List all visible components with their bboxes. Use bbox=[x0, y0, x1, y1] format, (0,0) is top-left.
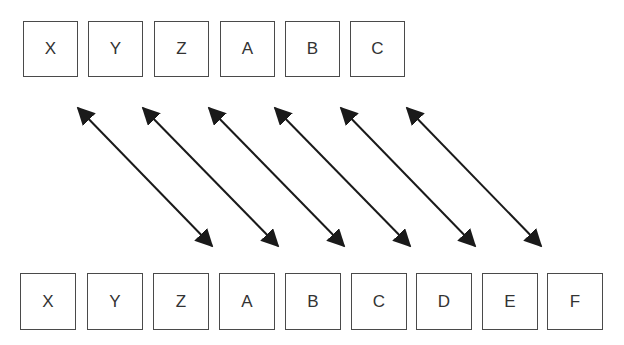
bottom-box-c: C bbox=[351, 273, 407, 330]
bottom-box-x: X bbox=[20, 273, 76, 330]
box-label: C bbox=[373, 292, 385, 312]
box-label: X bbox=[42, 292, 53, 312]
double-arrow-icon bbox=[78, 108, 212, 246]
bottom-box-b: B bbox=[285, 273, 341, 330]
bottom-box-d: D bbox=[416, 273, 472, 330]
box-label: F bbox=[570, 292, 580, 312]
box-label: B bbox=[307, 292, 318, 312]
box-label: A bbox=[241, 292, 252, 312]
bottom-box-a: A bbox=[219, 273, 275, 330]
box-label: Y bbox=[109, 292, 120, 312]
double-arrow-icon bbox=[341, 108, 475, 246]
bottom-box-z: Z bbox=[153, 273, 209, 330]
double-arrow-icon bbox=[407, 108, 541, 246]
box-label: Z bbox=[176, 292, 186, 312]
double-arrow-icon bbox=[275, 108, 410, 246]
bottom-box-y: Y bbox=[87, 273, 143, 330]
bottom-box-f: F bbox=[547, 273, 603, 330]
double-arrow-icon bbox=[143, 108, 278, 246]
box-label: E bbox=[504, 292, 515, 312]
double-arrow-icon bbox=[209, 108, 344, 246]
bottom-box-e: E bbox=[482, 273, 538, 330]
box-label: D bbox=[438, 292, 450, 312]
